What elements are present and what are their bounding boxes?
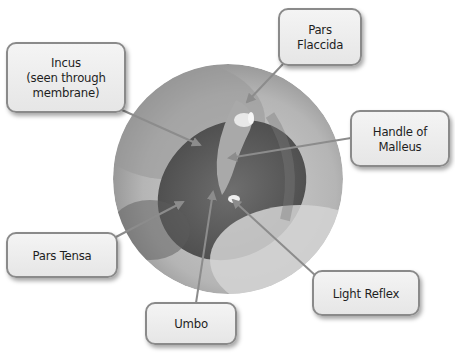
diagram-stage: Incus (seen through membrane) Pars Flacc… xyxy=(0,0,455,356)
label-handle-of-malleus: Handle of Malleus xyxy=(350,110,450,167)
label-umbo: Umbo xyxy=(145,302,237,345)
label-pars-flaccida: Pars Flaccida xyxy=(278,8,362,66)
label-pars-tensa: Pars Tensa xyxy=(6,232,118,278)
label-incus: Incus (seen through membrane) xyxy=(6,42,126,113)
label-light-reflex: Light Reflex xyxy=(312,270,420,316)
